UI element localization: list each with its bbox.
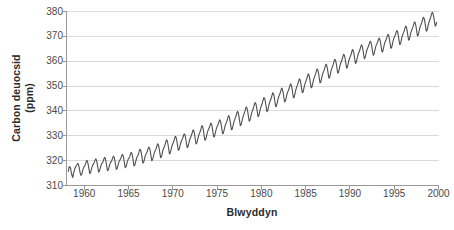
x-tick-label-1960: 1960 [64, 188, 104, 199]
x-tick-label-1980: 1980 [241, 188, 281, 199]
x-tick-label-1965: 1965 [109, 188, 149, 199]
x-tick-label-2000: 2000 [419, 188, 454, 199]
x-axis-tick-labels: 196019651970197519801985199019952000 [0, 188, 449, 204]
x-tick-label-1995: 1995 [374, 188, 414, 199]
x-tick-label-1985: 1985 [286, 188, 326, 199]
x-tick-label-1990: 1990 [330, 188, 370, 199]
x-axis-title: Blwyddyn [66, 206, 438, 218]
x-tick-label-1970: 1970 [153, 188, 193, 199]
x-tick-label-1975: 1975 [197, 188, 237, 199]
data-series-co2 [68, 12, 436, 177]
